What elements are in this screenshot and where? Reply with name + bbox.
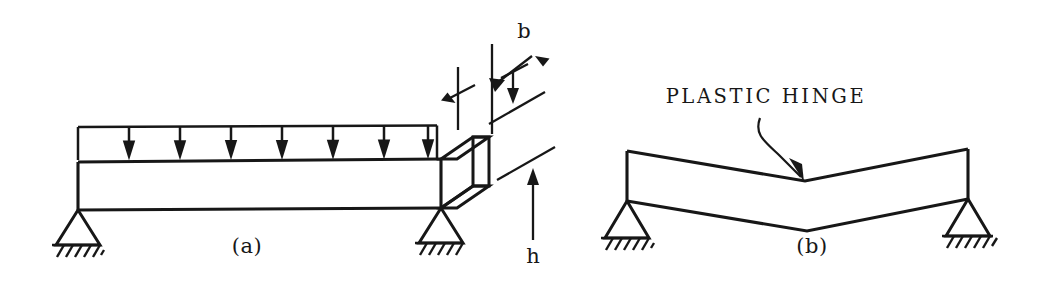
ground-hatching — [52, 245, 104, 257]
support-triangle — [605, 201, 649, 238]
dim-h-extension-upper — [497, 147, 555, 180]
support-triangle — [56, 210, 100, 245]
engineering-figure-svg: b h — [0, 0, 1045, 282]
panel-a-group: b h — [52, 19, 555, 268]
support-triangle — [946, 199, 990, 236]
plastic-hinge-leader-curve — [758, 118, 801, 177]
support-a-right — [415, 208, 463, 255]
panel-b-label: (b) — [796, 234, 827, 258]
beam-a-bottom-flange — [78, 208, 441, 210]
dim-b-label: b — [517, 19, 530, 43]
distributed-load-group — [78, 126, 437, 161]
load-arrow — [422, 126, 434, 160]
load-arrow — [327, 126, 339, 160]
load-arrow — [225, 127, 237, 161]
support-triangle — [419, 208, 463, 243]
dim-h-label: h — [526, 244, 540, 268]
beam-a-body — [78, 159, 441, 210]
load-arrow — [123, 127, 135, 161]
support-b-right — [942, 199, 997, 248]
load-arrow — [276, 126, 288, 159]
panel-b-group: PLASTIC HINGE — [601, 85, 997, 258]
load-arrow — [174, 127, 186, 161]
beam-b-bottom-chord — [627, 199, 968, 231]
support-b-left — [601, 201, 654, 250]
figure-container: b h — [0, 0, 1045, 282]
cross-section-side-face — [473, 137, 489, 186]
dimension-b-group: b — [441, 19, 550, 134]
panel-a-label: (a) — [232, 234, 262, 258]
depth-top-extension — [489, 92, 545, 124]
plastic-hinge-callout: PLASTIC HINGE — [666, 85, 867, 182]
ground-hatching — [415, 243, 463, 255]
dim-b-leader-to-label — [497, 56, 532, 83]
ground-hatching — [942, 236, 997, 248]
beam-b-mechanism — [627, 149, 968, 231]
support-a-left — [52, 210, 104, 257]
ground-hatching — [601, 238, 654, 250]
cross-section-end-connector — [441, 186, 473, 208]
dim-h-arrowhead — [527, 168, 539, 185]
beam-a-top-flange — [78, 159, 441, 162]
dimension-h-group: h — [497, 147, 555, 268]
plastic-hinge-label: PLASTIC HINGE — [666, 85, 867, 108]
beam-a-cross-section — [441, 137, 489, 208]
depth-top-arrowhead — [507, 88, 519, 104]
load-arrow — [378, 126, 390, 160]
cross-section-top-face — [441, 137, 489, 159]
